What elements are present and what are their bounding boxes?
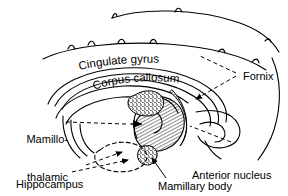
mamillary-body-stipple [138, 146, 158, 165]
mamillary-body-label: Mamillary body [158, 180, 232, 193]
fornix-label: Fornix [243, 70, 274, 83]
hippocampus-label: Hippocampus [16, 178, 83, 191]
